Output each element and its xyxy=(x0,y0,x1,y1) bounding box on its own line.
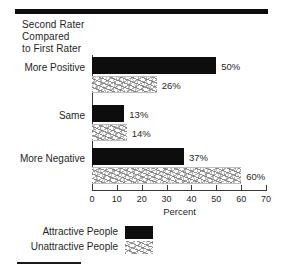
chart-title-line-2: Compared xyxy=(22,31,162,43)
x-tick-label-40: 40 xyxy=(178,194,204,204)
bar-same-attractive-people xyxy=(92,105,124,122)
bar-more-negative-attractive-people xyxy=(92,148,184,165)
x-tick-50 xyxy=(216,185,217,191)
legend-swatch-unattractive-people xyxy=(125,241,153,254)
x-tick-40 xyxy=(191,185,192,191)
x-tick-label-50: 50 xyxy=(203,194,229,204)
bottom-rule xyxy=(17,262,81,264)
legend-item-unattractive-people: Unattractive People xyxy=(0,241,283,256)
x-tick-label-60: 60 xyxy=(228,194,254,204)
value-label-more-negative-unattractive-people: 60% xyxy=(246,171,265,182)
chart-title: Second Rater Compared to First Rater xyxy=(22,19,162,56)
x-tick-label-30: 30 xyxy=(154,194,180,204)
legend-label-attractive-people: Attractive People xyxy=(0,226,118,237)
legend-item-attractive-people: Attractive People xyxy=(0,226,283,241)
value-label-more-positive-unattractive-people: 26% xyxy=(162,80,181,91)
bar-more-positive-unattractive-people xyxy=(92,76,157,93)
x-tick-label-20: 20 xyxy=(129,194,155,204)
category-label-same: Same xyxy=(0,110,85,121)
x-tick-70 xyxy=(266,185,267,191)
x-tick-20 xyxy=(142,185,143,191)
category-label-more-negative: More Negative xyxy=(0,153,85,164)
x-tick-label-70: 70 xyxy=(253,194,279,204)
value-label-more-positive-attractive-people: 50% xyxy=(221,61,240,72)
chart-title-line-3: to First Rater xyxy=(22,43,162,55)
category-label-more-positive: More Positive xyxy=(0,62,85,73)
legend-label-unattractive-people: Unattractive People xyxy=(0,241,118,252)
x-tick-10 xyxy=(117,185,118,191)
value-label-same-unattractive-people: 14% xyxy=(132,128,151,139)
value-label-more-negative-attractive-people: 37% xyxy=(189,152,208,163)
x-tick-label-0: 0 xyxy=(79,194,105,204)
value-label-same-attractive-people: 13% xyxy=(129,109,148,120)
top-rule xyxy=(15,9,268,14)
bar-more-positive-attractive-people xyxy=(92,57,216,74)
x-tick-0 xyxy=(92,185,93,191)
x-tick-label-10: 10 xyxy=(104,194,130,204)
chart-title-line-1: Second Rater xyxy=(22,19,162,31)
x-tick-30 xyxy=(167,185,168,191)
x-axis-title: Percent xyxy=(92,206,267,217)
bar-same-unattractive-people xyxy=(92,124,127,141)
x-tick-60 xyxy=(241,185,242,191)
bar-more-negative-unattractive-people xyxy=(92,167,241,184)
chart-figure: Second Rater Compared to First Rater 010… xyxy=(0,0,283,272)
legend-swatch-attractive-people xyxy=(125,226,153,239)
